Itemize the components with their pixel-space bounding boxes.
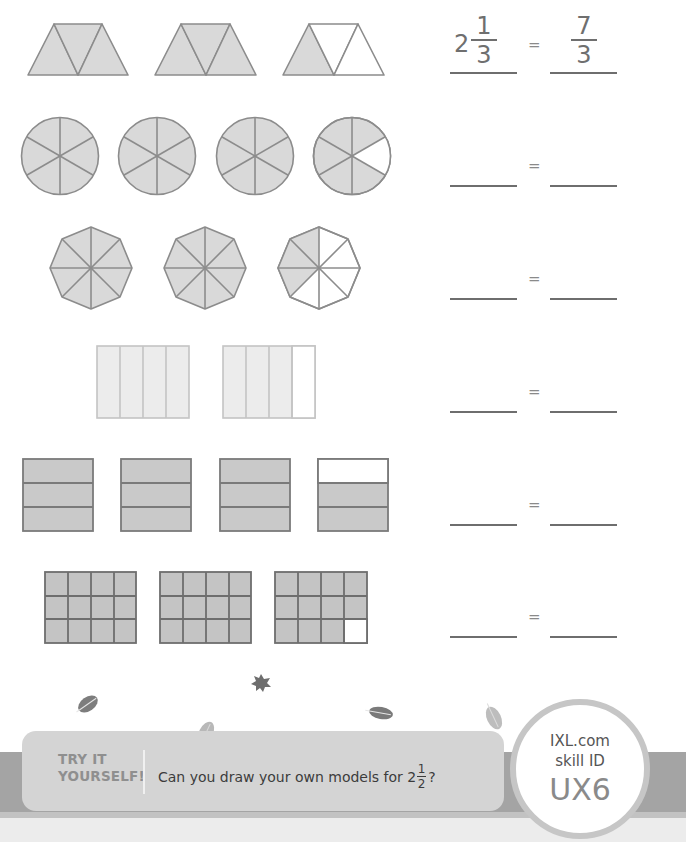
badge-skill-code: UX6 (549, 773, 611, 807)
answer-input-improper[interactable] (550, 524, 617, 526)
answer-input-mixed[interactable] (450, 411, 517, 413)
grid-twelfths-model-3 (275, 572, 367, 643)
answer-input-improper[interactable] (550, 411, 617, 413)
try-it-label: TRY IT YOURSELF! (58, 751, 145, 785)
rectangle-thirds-model-3 (220, 459, 290, 531)
answer-input-mixed[interactable] (450, 636, 517, 638)
grid-twelfths-model-1 (45, 572, 136, 643)
panel-divider (143, 750, 145, 794)
circle-model-1 (22, 118, 99, 195)
rectangle-fourths-model-1 (97, 346, 189, 418)
circle-model-2 (119, 118, 196, 195)
rectangle-thirds-model-1 (23, 459, 93, 531)
octagon-model-3 (278, 227, 360, 309)
circle-model-4 (314, 118, 391, 195)
octagon-model-2 (164, 227, 246, 309)
circle-model-3 (217, 118, 294, 195)
answer-input-mixed[interactable] (450, 185, 517, 187)
equals-sign: = (528, 157, 541, 175)
equals-sign: = (528, 36, 541, 54)
trapezoid-model-1 (28, 24, 128, 75)
prompt-fraction: 1 2 (417, 763, 426, 790)
try-it-prompt: Can you draw your own models for 2 1 2 ? (158, 763, 436, 790)
leaf-icon (73, 692, 102, 718)
mixed-number-whole: 2 (454, 30, 469, 58)
answer-input-mixed[interactable] (450, 298, 517, 300)
leaf-icon (481, 701, 506, 732)
rectangle-fourths-model-2 (223, 346, 315, 418)
answer-input-improper[interactable] (550, 185, 617, 187)
answer-line-mixed (450, 72, 517, 74)
trapezoid-model-2 (155, 24, 256, 75)
mixed-number-fraction: 1 3 (471, 14, 497, 67)
equals-sign: = (528, 270, 541, 288)
maple-leaf-icon (251, 674, 271, 692)
denominator: 3 (476, 43, 491, 67)
equals-sign: = (528, 608, 541, 626)
prompt-question-mark: ? (428, 769, 435, 785)
grid-twelfths-model-2 (160, 572, 251, 643)
answer-input-improper[interactable] (550, 298, 617, 300)
rectangle-thirds-model-4 (318, 459, 388, 531)
skill-id-badge[interactable]: IXL.com skill ID UX6 (510, 699, 650, 839)
badge-site: IXL.com (550, 731, 610, 751)
answer-input-mixed[interactable] (450, 524, 517, 526)
numerator: 1 (476, 14, 491, 38)
badge-label: skill ID (555, 751, 605, 771)
equals-sign: = (528, 496, 541, 514)
numerator: 7 (576, 14, 591, 38)
trapezoid-model-3 (283, 24, 384, 75)
answer-line-improper (550, 72, 617, 74)
leaf-icon (364, 704, 394, 721)
rectangle-thirds-model-2 (121, 459, 191, 531)
equals-sign: = (528, 383, 541, 401)
denominator: 3 (576, 43, 591, 67)
answer-input-improper[interactable] (550, 636, 617, 638)
octagon-model-1 (50, 227, 132, 309)
improper-fraction: 7 3 (571, 14, 597, 67)
prompt-text: Can you draw your own models for 2 (158, 769, 416, 785)
